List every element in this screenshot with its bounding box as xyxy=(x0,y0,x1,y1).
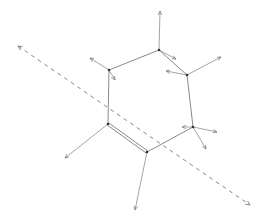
symmetry-axis xyxy=(18,46,250,205)
ring-bonds xyxy=(107,50,193,153)
atom-node xyxy=(146,151,149,154)
atom-node xyxy=(158,49,161,52)
displacement-arrow-icon xyxy=(193,127,206,149)
single-bond-line xyxy=(187,75,193,127)
single-bond-line xyxy=(109,50,159,70)
atom-node xyxy=(107,123,110,126)
displacement-arrow-icon xyxy=(65,124,108,158)
ring-atoms xyxy=(107,49,195,154)
single-bond-line xyxy=(159,50,187,75)
displacement-arrow-icon xyxy=(90,58,109,70)
dashed-axis-line xyxy=(18,46,250,205)
displacement-arrow-icon xyxy=(109,70,115,80)
displacement-vectors xyxy=(65,11,221,210)
atom-node xyxy=(186,74,189,77)
displacement-arrow-icon xyxy=(159,11,160,50)
displacement-arrow-icon xyxy=(193,127,217,132)
displacement-arrow-icon xyxy=(187,57,221,75)
atom-node xyxy=(108,69,111,72)
double-bond-line xyxy=(109,123,148,151)
single-bond-line xyxy=(108,70,109,124)
double-bond-line xyxy=(107,125,146,153)
displacement-arrow-icon xyxy=(135,152,147,210)
single-bond-line xyxy=(147,127,193,152)
atom-node xyxy=(192,126,195,129)
molecular-diagram xyxy=(0,0,265,222)
